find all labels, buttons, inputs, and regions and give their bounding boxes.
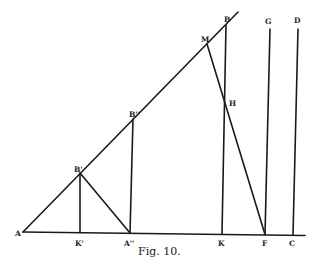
segment-B2A2 — [130, 119, 133, 233]
segment-B1A2 — [80, 173, 130, 233]
label-A: A — [14, 229, 21, 238]
baseline-AC — [23, 232, 305, 236]
segment-MF — [207, 44, 265, 235]
label-C: C — [289, 239, 295, 248]
label-K1: K' — [75, 239, 84, 248]
segment-BK — [222, 25, 226, 234]
label-D: D — [294, 16, 301, 25]
label-H: H — [229, 99, 236, 108]
label-G: G — [265, 17, 271, 26]
figure-caption: Fig. 10. — [138, 245, 181, 258]
label-K: K — [218, 239, 225, 248]
label-B2: B'' — [129, 110, 140, 119]
line-FG — [265, 29, 270, 235]
label-F: F — [262, 239, 268, 248]
line-CD — [293, 29, 298, 235]
label-M: M — [201, 35, 209, 44]
geometry-figure: A K' A'' K F C B' B'' M B H G D Fig. 10. — [0, 0, 312, 266]
label-A2: A'' — [123, 239, 134, 248]
label-B: B — [224, 15, 230, 24]
label-B1: B' — [74, 165, 83, 174]
